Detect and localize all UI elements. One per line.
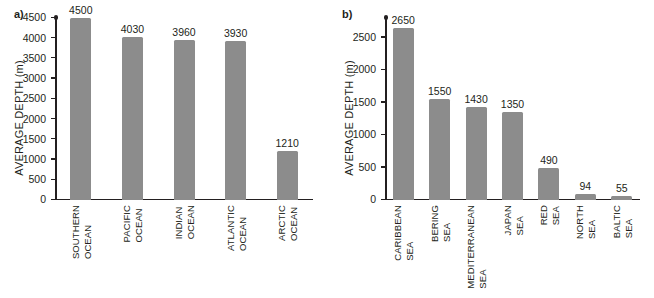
panel-a-y-tick: 0 bbox=[51, 199, 55, 200]
panel-a-y-tick-label: 1000 bbox=[23, 153, 46, 165]
panel-a-bar-value-label: 3930 bbox=[224, 27, 247, 39]
panel-b-y-tick: 1000 bbox=[381, 134, 385, 135]
panel-a-y-tick-label: 2500 bbox=[23, 92, 46, 104]
panel-a-y-tick: 2500 bbox=[51, 98, 55, 99]
panel-b-bar: 1550BERINGSEA bbox=[429, 99, 450, 200]
panel-b-category-label: CARIBBEANSEA bbox=[392, 205, 415, 261]
panel-b-y-tick-label: 0 bbox=[370, 193, 376, 205]
panel-a-y-tick-label: 3000 bbox=[23, 72, 46, 84]
panel-a-y-axis-line bbox=[55, 18, 57, 200]
panel-b-y-tick-label: 2000 bbox=[353, 63, 376, 75]
panel-b-category-label-line: SEA bbox=[404, 205, 415, 261]
panel-a-y-tick-label: 0 bbox=[40, 193, 46, 205]
panel-a-category-label-line: OCEAN bbox=[133, 205, 144, 242]
panel-b-y-tick-label: 1000 bbox=[353, 128, 376, 140]
panel-a-y-tick: 1500 bbox=[51, 138, 55, 139]
panel-a-y-tick: 500 bbox=[51, 179, 55, 180]
panel-b-y-tick: 1500 bbox=[381, 101, 385, 102]
panel-a: a) AVERAGE DEPTH (m) 0500100015002000250… bbox=[0, 0, 330, 298]
panel-b-bar-value-label: 1430 bbox=[464, 93, 487, 105]
panel-b-category-label-line: NORTH bbox=[574, 205, 585, 239]
panel-a-bar-value-label: 4030 bbox=[121, 23, 144, 35]
panel-b-category-label-line: SEA bbox=[513, 205, 524, 235]
panel-b-bar: 1430MEDITERRANEANSEA bbox=[466, 107, 487, 200]
panel-a-y-tick-label: 3500 bbox=[23, 52, 46, 64]
panel-b-bar-value-label: 490 bbox=[540, 154, 558, 166]
panel-a-y-tick: 4000 bbox=[51, 37, 55, 38]
panel-a-category-label-line: SOUTHERN bbox=[69, 205, 80, 259]
panel-a-y-tick-label: 1500 bbox=[23, 133, 46, 145]
panel-a-y-tick-label: 500 bbox=[28, 173, 46, 185]
panel-b-category-label: NORTHSEA bbox=[574, 205, 597, 239]
panel-a-bar-value-label: 3960 bbox=[172, 26, 195, 38]
panel-a-category-label-line: OCEAN bbox=[185, 205, 196, 239]
panel-b-y-tick: 2000 bbox=[381, 69, 385, 70]
panel-a-category-label: SOUTHERNOCEAN bbox=[69, 205, 92, 259]
panel-b-category-label-line: RED bbox=[537, 205, 548, 225]
panel-b-category-label-line: SEA bbox=[440, 205, 451, 242]
panel-a-bar: 3960INDIANOCEAN bbox=[174, 40, 195, 200]
panel-b-y-tick-label: 1500 bbox=[353, 96, 376, 108]
panel-a-category-label: ATLANTICOCEAN bbox=[224, 205, 247, 251]
panel-b-bar: 94NORTHSEA bbox=[575, 194, 596, 200]
panel-a-category-label-line: ARCTIC bbox=[276, 205, 287, 241]
figure-two-bar-charts: a) AVERAGE DEPTH (m) 0500100015002000250… bbox=[0, 0, 654, 298]
panel-a-y-tick-label: 2000 bbox=[23, 113, 46, 125]
panel-a-category-label: PACIFICOCEAN bbox=[121, 205, 144, 242]
panel-a-category-label-line: OCEAN bbox=[81, 205, 92, 259]
panel-b-bar: 490REDSEA bbox=[538, 168, 559, 200]
panel-a-bar: 4500SOUTHERNOCEAN bbox=[70, 18, 91, 200]
panel-b-bar-value-label: 1350 bbox=[501, 98, 524, 110]
panel-b-y-tick-label: 2500 bbox=[353, 31, 376, 43]
panel-a-bar-value-label: 1210 bbox=[276, 137, 299, 149]
panel-a-y-tick: 1000 bbox=[51, 158, 55, 159]
panel-b-category-label-line: MEDITERRANEAN bbox=[465, 205, 476, 289]
panel-b-category-label-line: BALTIC bbox=[610, 205, 621, 238]
panel-b-y-axis-line bbox=[385, 18, 387, 200]
panel-b-category-label: BERINGSEA bbox=[428, 205, 451, 242]
panel-a-bar: 1210ARCTICOCEAN bbox=[277, 151, 298, 200]
panel-b-bar-value-label: 1550 bbox=[428, 85, 451, 97]
panel-a-plot-area: 050010001500200025003000350040004500 450… bbox=[55, 18, 313, 200]
panel-a-y-tick-label: 4500 bbox=[23, 11, 46, 23]
panel-a-bar: 4030PACIFICOCEAN bbox=[122, 37, 143, 200]
panel-a-category-label-line: OCEAN bbox=[288, 205, 299, 241]
panel-b-y-axis-cap bbox=[384, 15, 389, 20]
panel-b-category-label: BALTICSEA bbox=[610, 205, 633, 238]
panel-b-y-tick-label: 500 bbox=[358, 161, 376, 173]
panel-b-category-label: JAPANSEA bbox=[501, 205, 524, 235]
panel-a-category-label-line: ATLANTIC bbox=[224, 205, 235, 251]
panel-a-category-label: INDIANOCEAN bbox=[173, 205, 196, 239]
panel-b-bar: 55BALTICSEA bbox=[611, 196, 632, 200]
panel-b-bar: 2650CARIBBEANSEA bbox=[393, 28, 414, 200]
panel-b-category-label: MEDITERRANEANSEA bbox=[465, 205, 488, 289]
panel-a-bar-value-label: 4500 bbox=[69, 4, 92, 16]
panel-b-y-tick: 500 bbox=[381, 166, 385, 167]
panel-b-plot-area: 05001000150020002500 2650CARIBBEANSEA155… bbox=[385, 18, 640, 200]
panel-a-y-tick: 4500 bbox=[51, 17, 55, 18]
panel-b-category-label-line: CARIBBEAN bbox=[392, 205, 403, 261]
panel-a-y-tick: 2000 bbox=[51, 118, 55, 119]
panel-b-y-tick: 0 bbox=[381, 199, 385, 200]
panel-b-letter: b) bbox=[342, 8, 352, 20]
panel-b-category-label-line: SEA bbox=[586, 205, 597, 239]
panel-a-y-tick: 3000 bbox=[51, 77, 55, 78]
panel-b-bar: 1350JAPANSEA bbox=[502, 112, 523, 200]
panel-b-category-label-line: SEA bbox=[549, 205, 560, 225]
panel-b-category-label-line: SEA bbox=[622, 205, 633, 238]
panel-b-category-label-line: BERING bbox=[428, 205, 439, 242]
panel-b-bar-value-label: 94 bbox=[580, 180, 592, 192]
panel-b-category-label-line: SEA bbox=[477, 205, 488, 289]
panel-a-bar: 3930ATLANTICOCEAN bbox=[225, 41, 246, 200]
panel-b-bar-value-label: 2650 bbox=[392, 14, 415, 26]
panel-b-category-label-line: JAPAN bbox=[501, 205, 512, 235]
panel-a-y-tick: 3500 bbox=[51, 57, 55, 58]
panel-a-category-label: ARCTICOCEAN bbox=[276, 205, 299, 241]
panel-a-y-tick-label: 4000 bbox=[23, 32, 46, 44]
panel-b: b) AVERAGE DEPTH (m) 0500100015002000250… bbox=[330, 0, 654, 298]
panel-a-category-label-line: OCEAN bbox=[236, 205, 247, 251]
panel-a-category-label-line: INDIAN bbox=[173, 205, 184, 239]
panel-b-category-label: REDSEA bbox=[537, 205, 560, 225]
panel-b-bar-value-label: 55 bbox=[616, 182, 628, 194]
panel-a-category-label-line: PACIFIC bbox=[121, 205, 132, 242]
